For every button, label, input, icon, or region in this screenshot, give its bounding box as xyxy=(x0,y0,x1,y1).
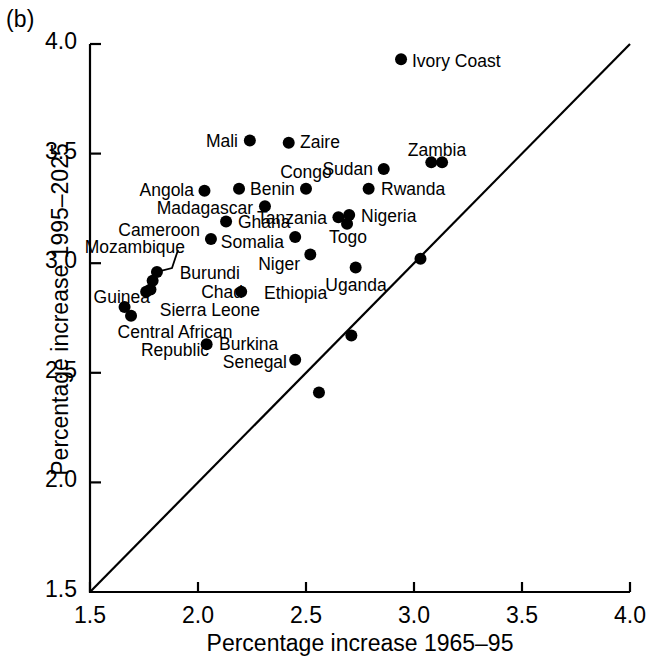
data-point[interactable] xyxy=(395,53,407,65)
data-point-label: Senegal xyxy=(0,353,287,371)
data-point-label: Guinea xyxy=(0,288,150,306)
x-tick-label: 2.5 xyxy=(271,602,341,629)
data-point-label: Burundi xyxy=(0,264,240,282)
data-point-label: Rwanda xyxy=(381,180,445,198)
data-point-label: Mali xyxy=(0,132,238,150)
data-point[interactable] xyxy=(363,183,375,195)
data-point[interactable] xyxy=(283,137,295,149)
data-point[interactable] xyxy=(233,183,245,195)
x-tick-label: 1.5 xyxy=(55,602,125,629)
data-point-label: Ivory Coast xyxy=(412,52,501,70)
x-tick-label: 3.5 xyxy=(487,602,557,629)
data-point-label: Angola xyxy=(0,181,194,199)
x-tick-label: 3.0 xyxy=(379,602,449,629)
data-point[interactable] xyxy=(345,330,357,342)
data-point[interactable] xyxy=(414,253,426,265)
data-point-label: Burkina xyxy=(219,335,278,353)
data-point[interactable] xyxy=(289,354,301,366)
data-point-label: Ghana xyxy=(238,213,291,231)
y-axis-title: Percentage increase 1995–2025 xyxy=(47,80,74,540)
data-point-label: Ethiopia xyxy=(264,284,327,302)
data-point-label: Zaire xyxy=(300,133,340,151)
data-point-label: Benin xyxy=(250,180,295,198)
data-point[interactable] xyxy=(313,387,325,399)
data-point-label: Zambia xyxy=(347,141,527,159)
x-tick-label: 4.0 xyxy=(595,602,654,629)
y-tick-label: 4.0 xyxy=(7,28,77,55)
data-point-label: Mozambique xyxy=(0,238,185,256)
data-point[interactable] xyxy=(304,248,316,260)
data-point-label: Nigeria xyxy=(361,207,416,225)
y-tick-label: 1.5 xyxy=(7,576,77,603)
data-point-label: Congo xyxy=(216,163,396,181)
scatter-figure: (b) 1.52.02.53.03.54.01.52.02.53.03.54.0… xyxy=(0,0,654,665)
data-point[interactable] xyxy=(350,262,362,274)
x-tick-label: 2.0 xyxy=(163,602,233,629)
x-axis-title: Percentage increase 1965–95 xyxy=(90,630,630,657)
data-point[interactable] xyxy=(198,185,210,197)
data-point[interactable] xyxy=(244,134,256,146)
data-point[interactable] xyxy=(300,183,312,195)
